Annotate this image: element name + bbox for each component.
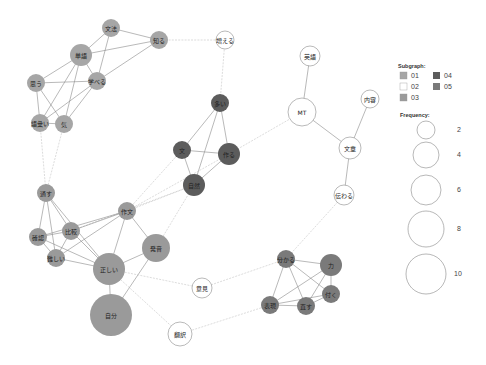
node-label: 通す [40,190,52,198]
node-manaberu[interactable]: 学べる [88,72,106,90]
node-label: 付く [325,291,337,299]
node-bunpo[interactable]: 文法 [102,19,120,37]
node-label: 内容 [364,96,376,104]
node-hatsuon[interactable]: 発音 [142,234,170,262]
node-shizen[interactable]: 自然 [183,174,205,196]
node-toosu[interactable]: 通す [37,184,55,202]
node-label: 気 [61,121,67,129]
frequency-legend-item-8: 8 [408,211,461,247]
node-label: 語彙い [31,120,49,128]
frequency-legend-item-2: 2 [417,121,461,139]
edge-iken-wakaru [202,259,286,288]
edge-oi-bun [182,103,220,150]
node-muzukashii[interactable]: 難しい [47,249,65,267]
edge-tango-goi [40,55,81,123]
node-hikaku[interactable]: 比較 [62,222,80,240]
node-label: 難しい [47,255,65,263]
frequency-circle-8 [408,211,444,247]
node-label: 正しい [100,266,118,273]
node-kakunin[interactable]: 確認 [29,228,47,246]
node-jibun[interactable]: 自分 [90,294,132,336]
node-label: 発音 [150,245,162,253]
node-label: 英語 [304,53,316,61]
node-mt[interactable]: MT [288,98,316,126]
edge-honyaku-hyogen [180,305,270,334]
node-hyogen[interactable]: 表現 [261,296,279,314]
subgraph-legend-item-05: 05 [433,83,452,90]
node-label: 伝わる [335,192,353,200]
subgraph-label-05: 05 [444,83,452,90]
edge-ki-toosu [46,124,64,193]
edge-tsutawaru-wakaru [286,195,344,259]
edge-fueru-oi [220,40,225,103]
node-label: 文法 [105,25,117,33]
node-label: MT [298,109,307,116]
subgraph-legend-item-03: 03 [400,94,419,101]
node-wakaru[interactable]: 分かる [277,250,295,268]
node-label: 知る [153,37,165,45]
node-label: 力 [328,262,334,270]
nodes-layer: 文法知る単語学べる思う語彙い気増える英語MT内容文章伝わる意見翻訳多い文作る自然… [27,19,379,346]
subgraph-label-02: 02 [411,83,419,90]
subgraph-swatch-05 [433,83,440,90]
legend: Subgraph: 01 02 03 04 05 Frequency: 2 4 [398,63,462,294]
node-tsutawaru[interactable]: 伝わる [334,185,354,205]
node-label: 学べる [88,78,106,85]
node-honyaku[interactable]: 翻訳 [168,322,192,346]
frequency-legend-item-10: 10 [406,254,462,294]
node-bun[interactable]: 文 [173,141,191,159]
node-fueru[interactable]: 増える [216,31,234,49]
node-tadashii[interactable]: 正しい [93,253,125,285]
node-ki[interactable]: 気 [55,115,73,133]
edge-kakunin-sakubun [38,211,127,237]
frequency-legend-item-6: 6 [411,175,461,205]
subgraph-legend-item-01: 01 [400,72,419,79]
subgraph-legend-title: Subgraph: [398,63,426,69]
subgraph-swatch-04 [433,72,440,79]
frequency-circle-6 [411,175,441,205]
node-sakubun[interactable]: 作文 [118,202,136,220]
frequency-label-4: 4 [457,151,461,158]
node-chikara[interactable]: 力 [320,254,342,276]
subgraph-label-01: 01 [411,72,419,79]
node-naosu[interactable]: 直す [297,297,315,315]
node-iken[interactable]: 意見 [192,278,212,298]
node-label: 自然 [188,182,200,190]
node-tango[interactable]: 単語 [70,44,92,66]
frequency-label-6: 6 [457,186,461,193]
subgraph-label-04: 04 [444,72,452,79]
node-goi[interactable]: 語彙い [31,114,49,132]
frequency-circle-2 [417,121,435,139]
edge-sakubun-bun [127,150,182,211]
frequency-label-8: 8 [457,225,461,232]
node-label: 意見 [196,285,208,293]
node-shiru[interactable]: 知る [150,31,168,49]
subgraph-swatch-03 [400,94,407,101]
node-label: 表現 [264,302,276,310]
node-tsukuru[interactable]: 作る [218,143,240,165]
node-label: 作文 [121,208,133,216]
subgraph-swatch-02 [400,83,407,90]
edge-goi-toosu [40,123,46,193]
node-omou[interactable]: 思う [27,74,45,92]
node-eigo[interactable]: 英語 [300,46,320,66]
node-label: 単語 [75,52,87,60]
frequency-circle-4 [413,142,439,168]
co-occurrence-network: 文法知る単語学べる思う語彙い気増える英語MT内容文章伝わる意見翻訳多い文作る自然… [0,0,486,365]
node-oi[interactable]: 多い [211,94,229,112]
node-label: 増える [216,37,234,45]
node-naiyo[interactable]: 内容 [361,90,379,108]
subgraph-swatch-01 [400,72,407,79]
edge-sakubun-tsukuru [127,154,229,211]
frequency-label-2: 2 [457,126,461,133]
node-bunsho[interactable]: 文章 [339,137,361,159]
node-label: 文 [179,147,185,155]
subgraph-label-03: 03 [411,94,419,101]
frequency-circle-10 [406,254,446,294]
node-label: 文章 [344,145,356,153]
frequency-legend-title: Frequency: [400,112,430,118]
node-tsuku[interactable]: 付く [322,285,340,303]
node-label: 思う [30,80,42,88]
subgraph-legend-item-04: 04 [433,72,452,79]
node-label: 多い [214,100,226,108]
